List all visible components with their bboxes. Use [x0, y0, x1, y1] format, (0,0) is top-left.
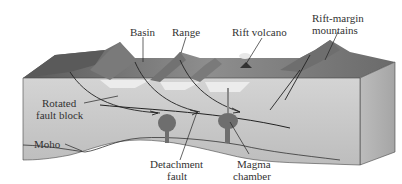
- side-face: [360, 62, 395, 165]
- rift-diagram: Basin Range Rift volcano Rift-margin mou…: [0, 0, 402, 184]
- label-magma-1: Magma: [237, 158, 271, 170]
- magma-stem-left: [165, 125, 169, 143]
- label-rotated-1: Rotated: [42, 97, 76, 109]
- label-rift-margin-2: mountains: [312, 24, 358, 36]
- label-rotated-2: fault block: [36, 109, 83, 121]
- label-rift-volcano: Rift volcano: [232, 26, 287, 38]
- label-moho: Moho: [34, 138, 60, 150]
- label-range: Range: [172, 26, 200, 38]
- label-magma-2: chamber: [233, 170, 271, 182]
- label-detachment-1: Detachment: [150, 158, 203, 170]
- label-rift-margin-1: Rift-margin: [312, 12, 364, 24]
- front-face: [23, 78, 360, 165]
- label-detachment-2: fault: [167, 170, 187, 182]
- magma-stem-chamber: [225, 121, 230, 143]
- label-basin: Basin: [130, 26, 155, 38]
- leader-range: [181, 37, 186, 53]
- volcano-plume: [239, 53, 251, 59]
